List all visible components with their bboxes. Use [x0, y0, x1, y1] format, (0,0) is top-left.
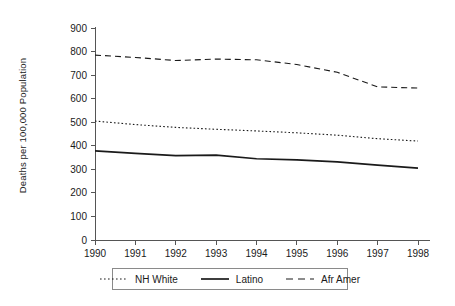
x-tick-label: 1998 [407, 248, 430, 259]
legend-swatch-dashed-line-icon [285, 274, 315, 284]
series-line-latino [95, 151, 418, 168]
y-tick-label: 300 [70, 164, 87, 175]
legend-item-nh-white: NH White [88, 274, 189, 285]
y-tick-label: 100 [70, 211, 87, 222]
x-tick-label: 1990 [84, 248, 107, 259]
plot-area: 0100200300400500600700800900 19901991199… [0, 0, 455, 306]
y-tick-label: 900 [70, 23, 87, 34]
y-axis-ticks: 0100200300400500600700800900 [70, 23, 95, 246]
legend-item-afr-amer: Afr Amer [274, 274, 371, 285]
y-tick-label: 0 [81, 235, 87, 246]
legend-swatch-dotted-line-icon [99, 274, 129, 284]
data-series-group [95, 55, 418, 168]
line-chart: Deaths per 100,000 Population 0100200300… [0, 0, 455, 306]
series-line-afr-amer [95, 55, 418, 88]
legend-item-latino: Latino [189, 274, 274, 285]
legend-label: Latino [236, 274, 263, 285]
legend-label: NH White [135, 274, 178, 285]
y-tick-label: 500 [70, 117, 87, 128]
x-tick-label: 1995 [286, 248, 309, 259]
y-tick-label: 700 [70, 70, 87, 81]
chart-legend: NH WhiteLatinoAfr Amer [112, 268, 348, 290]
y-tick-label: 200 [70, 187, 87, 198]
legend-swatch-solid-line-icon [200, 274, 230, 284]
x-tick-label: 1996 [326, 248, 349, 259]
x-tick-label: 1994 [245, 248, 268, 259]
y-tick-label: 400 [70, 140, 87, 151]
series-line-nh-white [95, 121, 418, 141]
x-tick-label: 1997 [367, 248, 390, 259]
x-tick-label: 1991 [124, 248, 147, 259]
x-axis-ticks: 199019911992199319941995199619971998 [84, 240, 430, 259]
y-tick-label: 600 [70, 93, 87, 104]
y-tick-label: 800 [70, 46, 87, 57]
legend-label: Afr Amer [321, 274, 360, 285]
x-tick-label: 1993 [205, 248, 228, 259]
x-tick-label: 1992 [165, 248, 188, 259]
